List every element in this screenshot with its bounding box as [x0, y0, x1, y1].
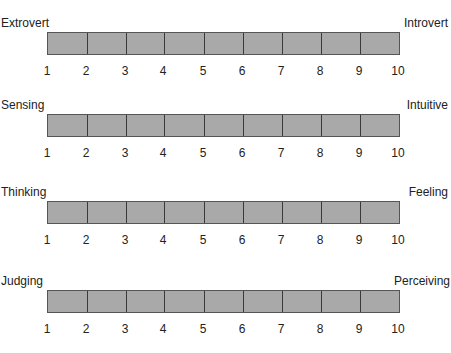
scale-row: JudgingPerceiving12345678910 [0, 274, 451, 344]
tick-label: 2 [76, 146, 96, 160]
scale-divider [243, 115, 244, 136]
scale-divider [87, 115, 88, 136]
scale-divider [282, 291, 283, 312]
tick-label: 5 [193, 64, 213, 78]
scale-divider [87, 202, 88, 223]
scale-divider [204, 291, 205, 312]
scale-divider [360, 33, 361, 54]
tick-label: 9 [349, 64, 369, 78]
scale-divider [321, 33, 322, 54]
tick-label: 8 [310, 146, 330, 160]
scale-divider [243, 202, 244, 223]
scale-divider [282, 115, 283, 136]
scale-divider [360, 202, 361, 223]
tick-label: 3 [115, 233, 135, 247]
tick-label: 8 [310, 233, 330, 247]
scale-divider [87, 291, 88, 312]
left-pole-label: Sensing [1, 98, 44, 112]
scale-divider [126, 115, 127, 136]
tick-label: 9 [349, 322, 369, 336]
scale-divider [164, 291, 165, 312]
tick-label: 4 [153, 233, 173, 247]
left-pole-label: Thinking [1, 185, 46, 199]
scale-bar [47, 201, 400, 224]
tick-label: 2 [76, 322, 96, 336]
scale-divider [164, 115, 165, 136]
tick-label: 10 [388, 322, 408, 336]
tick-label: 1 [37, 233, 57, 247]
scale-divider [164, 33, 165, 54]
right-pole-label: Feeling [409, 185, 448, 199]
right-pole-label: Intuitive [407, 98, 448, 112]
right-pole-label: Introvert [404, 16, 448, 30]
tick-label: 7 [271, 146, 291, 160]
left-pole-label: Extrovert [1, 16, 49, 30]
tick-label: 8 [310, 322, 330, 336]
scale-divider [126, 291, 127, 312]
scale-divider [243, 291, 244, 312]
right-pole-label: Perceiving [394, 274, 450, 288]
tick-label: 1 [37, 322, 57, 336]
scale-bar [47, 114, 400, 137]
scale-bar [47, 32, 400, 55]
tick-label: 3 [115, 322, 135, 336]
tick-label: 2 [76, 64, 96, 78]
tick-label: 2 [76, 233, 96, 247]
scale-divider [321, 202, 322, 223]
tick-label: 4 [153, 146, 173, 160]
tick-label: 6 [232, 322, 252, 336]
scale-divider [282, 202, 283, 223]
tick-label: 6 [232, 64, 252, 78]
tick-label: 7 [271, 233, 291, 247]
scale-divider [204, 115, 205, 136]
scale-bar [47, 290, 400, 313]
tick-label: 1 [37, 64, 57, 78]
scale-divider [126, 33, 127, 54]
tick-label: 9 [349, 233, 369, 247]
scale-row: ExtrovertIntrovert12345678910 [0, 16, 451, 86]
tick-label: 5 [193, 322, 213, 336]
scale-divider [321, 291, 322, 312]
scale-row: SensingIntuitive12345678910 [0, 98, 451, 168]
tick-label: 5 [193, 233, 213, 247]
tick-label: 9 [349, 146, 369, 160]
scale-divider [126, 202, 127, 223]
tick-label: 7 [271, 322, 291, 336]
scale-divider [164, 202, 165, 223]
scale-divider [360, 291, 361, 312]
tick-label: 4 [153, 64, 173, 78]
tick-label: 1 [37, 146, 57, 160]
scale-divider [87, 33, 88, 54]
scale-divider [204, 202, 205, 223]
tick-label: 5 [193, 146, 213, 160]
scale-divider [282, 33, 283, 54]
tick-label: 6 [232, 146, 252, 160]
scale-row: ThinkingFeeling12345678910 [0, 185, 451, 255]
left-pole-label: Judging [1, 274, 43, 288]
scale-divider [360, 115, 361, 136]
scale-divider [243, 33, 244, 54]
tick-label: 8 [310, 64, 330, 78]
tick-label: 3 [115, 146, 135, 160]
tick-label: 10 [388, 233, 408, 247]
tick-label: 4 [153, 322, 173, 336]
tick-label: 6 [232, 233, 252, 247]
tick-label: 3 [115, 64, 135, 78]
scale-divider [204, 33, 205, 54]
scale-divider [321, 115, 322, 136]
tick-label: 7 [271, 64, 291, 78]
tick-label: 10 [388, 146, 408, 160]
tick-label: 10 [388, 64, 408, 78]
